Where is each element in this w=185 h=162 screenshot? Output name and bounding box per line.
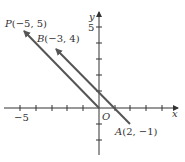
point-a-name: A <box>114 126 122 137</box>
x-axis: −5 x <box>4 105 178 123</box>
vector-diagram: −5 x 5 y O P(−5, 5) B(−3, 4) A(2, −1) <box>0 0 185 162</box>
point-b-label: B(−3, 4) <box>36 33 80 44</box>
point-a-label: A(2, −1) <box>114 126 158 137</box>
x-axis-label: x <box>172 108 178 119</box>
point-a-coords: (2, −1) <box>122 126 157 137</box>
point-b-name: B <box>36 33 44 44</box>
point-p-label: P(−5, 5) <box>4 18 47 29</box>
y-axis-label: y <box>88 11 95 22</box>
y-tick-label: 5 <box>88 22 94 33</box>
x-tick-label: −5 <box>14 112 29 123</box>
vector-ab <box>56 49 130 124</box>
origin-label: O <box>102 111 110 122</box>
point-p-coords: (−5, 5) <box>12 18 47 29</box>
point-b-coords: (−3, 4) <box>44 33 79 44</box>
